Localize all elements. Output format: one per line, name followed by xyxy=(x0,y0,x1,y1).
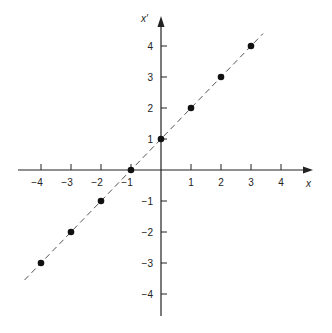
dashed-line-segment xyxy=(25,34,264,280)
data-point xyxy=(248,43,255,50)
y-tick-label: −4 xyxy=(142,289,154,300)
y-axis-arrow-icon xyxy=(158,16,165,27)
y-tick-label: 3 xyxy=(147,72,153,83)
data-point xyxy=(218,74,225,81)
x-axis-arrow-icon xyxy=(303,167,313,174)
x-tick-label: −4 xyxy=(31,177,43,188)
x-tick-label: 4 xyxy=(278,177,284,188)
data-point xyxy=(68,229,75,236)
y-tick-label: −1 xyxy=(142,196,154,207)
y-axis-label: x′ xyxy=(140,13,149,24)
data-point xyxy=(38,260,45,267)
y-tick-label: −3 xyxy=(142,258,154,269)
data-point xyxy=(188,105,195,112)
data-point xyxy=(158,136,165,143)
dashed-line xyxy=(25,34,264,280)
y-tick-label: 4 xyxy=(147,41,153,52)
x-axis-label: x xyxy=(305,178,312,189)
coordinate-plot: −4−3−2−11234−4−3−2−11234 x x′ xyxy=(0,0,332,333)
x-tick-label: −3 xyxy=(61,177,73,188)
y-tick-label: 2 xyxy=(147,103,153,114)
x-tick-label: 3 xyxy=(248,177,254,188)
x-tick-label: 2 xyxy=(218,177,224,188)
axes xyxy=(18,16,313,316)
data-point xyxy=(98,198,105,205)
y-tick-label: 1 xyxy=(147,134,153,145)
y-tick-label: −2 xyxy=(142,227,154,238)
x-tick-label: 1 xyxy=(188,177,194,188)
data-point xyxy=(128,167,135,174)
x-tick-label: −2 xyxy=(91,177,103,188)
chart: −4−3−2−11234−4−3−2−11234 x x′ xyxy=(0,0,332,333)
